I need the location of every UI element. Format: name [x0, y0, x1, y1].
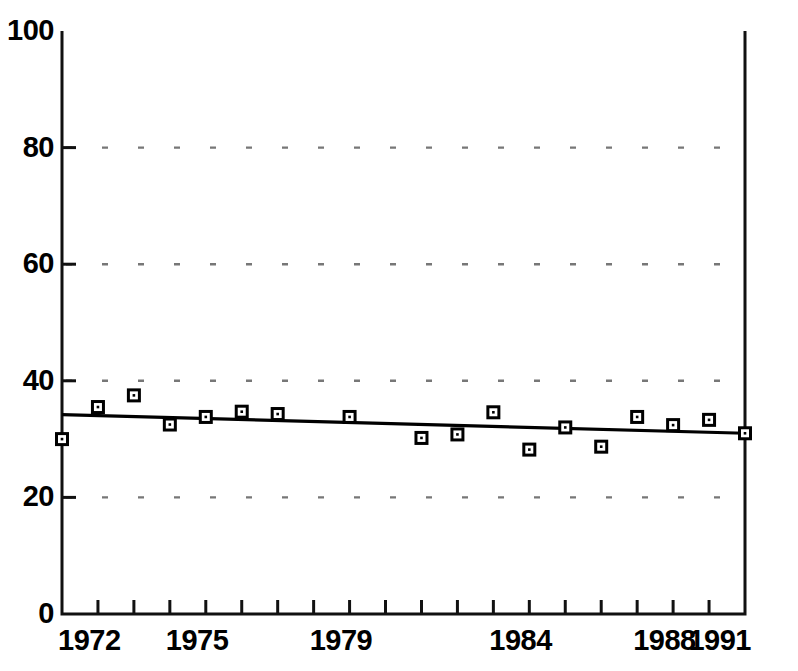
marker-center-1975 — [169, 423, 172, 426]
marker-center-1986 — [564, 426, 567, 429]
y-tick-label-80: 80 — [23, 133, 54, 162]
x-tick-label-1979: 1979 — [310, 626, 373, 655]
x-tick-label-1991: 1991 — [688, 626, 751, 655]
marker-center-1989 — [672, 424, 675, 427]
data-point-1987 — [596, 441, 607, 452]
marker-center-1984 — [492, 411, 495, 414]
data-point-1982 — [416, 432, 427, 443]
y-tick-label-40: 40 — [23, 366, 54, 395]
data-point-1972 — [57, 434, 68, 445]
data-point-1980 — [344, 411, 355, 422]
marker-center-1982 — [420, 437, 423, 440]
marker-center-1977 — [240, 410, 243, 413]
data-point-1978 — [272, 409, 283, 420]
plot-frame-border — [62, 31, 745, 614]
chart-container: 020406080100 197219751979198419881991 — [0, 0, 798, 671]
marker-center-1976 — [204, 416, 207, 419]
data-point-1983 — [452, 429, 463, 440]
marker-center-1988 — [636, 416, 639, 419]
y-tick-label-100: 100 — [7, 16, 54, 45]
data-point-1986 — [560, 422, 571, 433]
x-tick-label-1988: 1988 — [633, 626, 696, 655]
data-point-1974 — [128, 390, 139, 401]
x-axis-ticks — [98, 600, 709, 614]
y-tick-label-20: 20 — [23, 482, 54, 511]
marker-center-1985 — [528, 448, 531, 451]
marker-center-1978 — [276, 413, 279, 416]
marker-center-1991 — [744, 432, 747, 435]
marker-center-1990 — [708, 419, 711, 422]
scatter-plot-svg — [0, 0, 798, 671]
x-tick-label-1975: 1975 — [166, 626, 229, 655]
data-point-1989 — [668, 420, 679, 431]
data-point-1975 — [164, 419, 175, 430]
y-tick-label-60: 60 — [23, 249, 54, 278]
data-point-1988 — [632, 411, 643, 422]
data-point-1985 — [524, 444, 535, 455]
marker-center-1983 — [456, 433, 459, 436]
y-tick-label-0: 0 — [38, 599, 54, 628]
data-point-1984 — [488, 407, 499, 418]
marker-center-1972 — [61, 438, 64, 441]
data-point-1973 — [92, 402, 103, 413]
data-point-1976 — [200, 411, 211, 422]
x-tick-label-1984: 1984 — [489, 626, 552, 655]
x-tick-label-1972: 1972 — [58, 626, 121, 655]
marker-center-1974 — [133, 394, 136, 397]
marker-center-1980 — [348, 416, 351, 419]
marker-center-1973 — [97, 406, 100, 409]
data-point-1990 — [704, 414, 715, 425]
gridlines-group — [66, 148, 743, 498]
axis-frame — [62, 31, 745, 614]
marker-center-1987 — [600, 445, 603, 448]
data-point-1977 — [236, 406, 247, 417]
data-point-1991 — [740, 428, 751, 439]
